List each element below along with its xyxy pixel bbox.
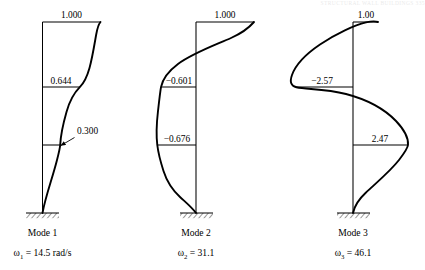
mode3-base-hatch [337, 213, 370, 218]
mode1-omega-value: = 14.5 rad/s [23, 247, 71, 258]
mode1-floor1-value: 0.300 [77, 126, 98, 136]
mode3-floor1-value: 2.47 [372, 134, 389, 144]
mode3-deflected-shape [291, 21, 408, 213]
panel-mode-2: 1.000 −0.601 −0.676 Mode 2 ω2 = 31.1 [157, 10, 254, 260]
mode-shape-figure: 1.000 0.644 0.300 Mode 1 ω1 = 14.5 rad/s… [0, 0, 425, 270]
mode1-deflected-shape [43, 22, 101, 213]
mode1-frequency: ω1 = 14.5 rad/s [14, 247, 72, 260]
panel-mode-3: 1.00 −2.57 2.47 Mode 3 ω3 = 46.1 [291, 10, 408, 260]
mode2-deflected-shape [157, 22, 254, 213]
mode1-roof-value: 1.000 [61, 10, 82, 20]
mode1-floor2-value: 0.644 [50, 76, 71, 86]
mode1-floor1-leader [61, 138, 75, 146]
mode2-base-hatch [180, 213, 213, 218]
mode3-roof-value: 1.00 [358, 10, 375, 20]
mode2-roof-value: 1.000 [214, 10, 235, 20]
mode3-caption: Mode 3 [338, 227, 368, 238]
mode2-omega-value: = 31.1 [187, 247, 214, 258]
mode1-base-hatch [26, 213, 59, 218]
mode2-floor2-value: −0.601 [166, 76, 193, 86]
panel-mode-1: 1.000 0.644 0.300 Mode 1 ω1 = 14.5 rad/s [14, 10, 101, 260]
mode1-caption: Mode 1 [28, 227, 58, 238]
mode3-omega-value: = 46.1 [344, 247, 371, 258]
mode2-floor1-value: −0.676 [164, 134, 191, 144]
mode3-floor2-value: −2.57 [311, 76, 333, 86]
mode3-frequency: ω3 = 46.1 [335, 247, 372, 260]
mode2-caption: Mode 2 [181, 227, 211, 238]
mode2-frequency: ω2 = 31.1 [178, 247, 215, 260]
